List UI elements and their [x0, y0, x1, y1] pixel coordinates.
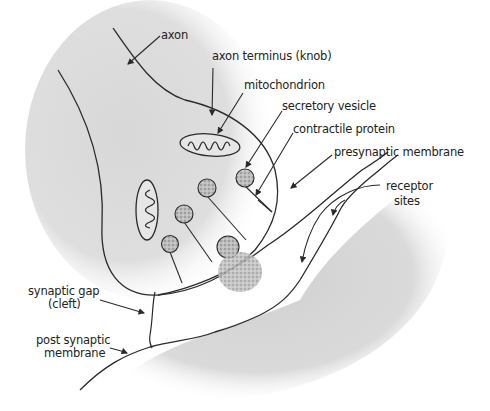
label-secretory-vesicle: secretory vesicle [282, 100, 376, 112]
label-receptor-sites-1: receptor [386, 180, 433, 192]
label-contractile-protein: contractile protein [293, 123, 395, 135]
label-axon: axon [161, 29, 188, 41]
neurotransmitter-release [218, 252, 262, 292]
label-axon-terminus: axon terminus (knob) [212, 50, 331, 62]
label-presynaptic-membrane: presynaptic membrane [334, 146, 464, 158]
label-receptor-sites-2: sites [394, 195, 420, 207]
label-mitochondrion: mitochondrion [244, 79, 325, 91]
label-post-synaptic-1: post synaptic [36, 334, 110, 346]
label-post-synaptic-2: membrane [44, 347, 105, 359]
mitochondrion-vertical [136, 180, 158, 240]
label-synaptic-gap-1: synaptic gap [28, 285, 99, 297]
label-synaptic-gap-2: (cleft) [48, 298, 81, 310]
synaptic-cleft-line [150, 292, 155, 348]
synapse-diagram: axon axon terminus (knob) mitochondrion … [0, 0, 490, 411]
